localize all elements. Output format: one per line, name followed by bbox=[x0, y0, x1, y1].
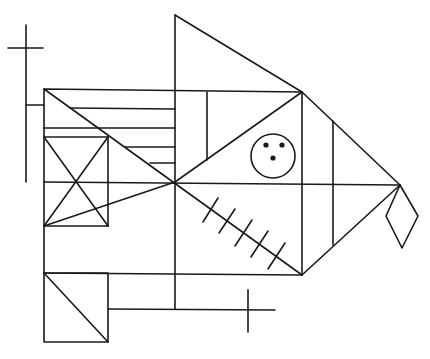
face-dot-1 bbox=[263, 142, 268, 147]
hatch-1 bbox=[203, 198, 218, 222]
hatch-5 bbox=[268, 243, 285, 269]
complex-figure-drawing bbox=[0, 0, 430, 359]
lower-left-square-diagonal bbox=[44, 273, 108, 342]
figure-lines bbox=[8, 15, 418, 342]
circle-with-dots bbox=[251, 134, 295, 178]
left-hline-1 bbox=[70, 108, 175, 109]
right-triangle-lower bbox=[302, 185, 400, 275]
diagonal-lower-left bbox=[44, 182, 175, 226]
horizontal-midline bbox=[44, 182, 400, 185]
lower-ledge bbox=[108, 309, 275, 310]
face-dot-3 bbox=[270, 155, 275, 160]
hatch-3 bbox=[235, 220, 252, 246]
top-triangle bbox=[175, 15, 302, 92]
face-dot-2 bbox=[279, 142, 284, 147]
hatch-2 bbox=[219, 209, 235, 233]
right-triangle-upper bbox=[302, 92, 400, 185]
hatch-4 bbox=[251, 231, 268, 257]
